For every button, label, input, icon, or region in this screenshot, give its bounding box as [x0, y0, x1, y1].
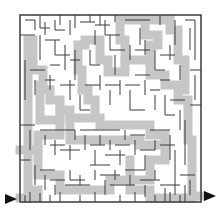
entry-arrow-icon — [5, 194, 17, 204]
exit-arrow-icon — [204, 191, 216, 201]
maze-diagram — [0, 0, 223, 213]
